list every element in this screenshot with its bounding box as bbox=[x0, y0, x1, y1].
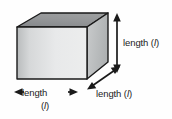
width-label-text: length bbox=[22, 87, 47, 98]
height-arrow bbox=[113, 13, 121, 73]
width-label-symbol-group: (l) bbox=[41, 100, 49, 111]
depth-label-close: ) bbox=[129, 88, 132, 99]
height-label-close: ) bbox=[156, 37, 159, 48]
cube-front-face bbox=[17, 27, 87, 79]
cube-dimensions-diagram: length (l) length (l) length (l) bbox=[0, 0, 172, 119]
cube-diagram-svg bbox=[0, 0, 172, 119]
width-label-close: ) bbox=[46, 100, 49, 111]
depth-label: length (l) bbox=[96, 88, 132, 99]
depth-label-text: length ( bbox=[96, 88, 127, 99]
width-label: length bbox=[22, 87, 47, 98]
height-label: length (l) bbox=[123, 37, 159, 48]
height-label-text: length ( bbox=[123, 37, 154, 48]
